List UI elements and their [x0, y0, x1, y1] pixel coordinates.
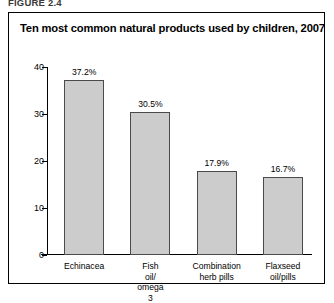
chart-title: Ten most common natural products used by…: [20, 22, 325, 34]
bar[interactable]: [197, 171, 237, 255]
bar-group[interactable]: 37.2%Echinacea: [64, 67, 104, 255]
x-axis-category-label: Fish oil/ omega 3: [137, 261, 163, 303]
y-axis-tick-label: 40: [34, 62, 44, 72]
bar-value-label: 16.7%: [271, 164, 295, 174]
bar-value-label: 37.2%: [72, 67, 96, 77]
bar[interactable]: [130, 112, 170, 255]
bar-value-label: 17.9%: [204, 158, 228, 168]
bar[interactable]: [64, 80, 104, 255]
bar-group[interactable]: 30.5%Fish oil/ omega 3: [130, 67, 170, 255]
plot-area: 010203040 37.2%Echinacea30.5%Fish oil/ o…: [47, 67, 312, 255]
y-axis-tick-label: 20: [34, 156, 44, 166]
y-axis-tick-label: 30: [34, 109, 44, 119]
bar[interactable]: [263, 177, 303, 255]
x-axis-category-label: Combination herb pills: [193, 261, 241, 282]
bars-layer: 37.2%Echinacea30.5%Fish oil/ omega 317.9…: [47, 67, 312, 255]
bar-group[interactable]: 17.9%Combination herb pills: [197, 67, 237, 255]
y-axis-tick-label: 0: [39, 250, 44, 260]
bar-value-label: 30.5%: [138, 99, 162, 109]
bar-group[interactable]: 16.7%Flaxseed oil/pills: [263, 67, 303, 255]
y-axis-tick-label: 10: [34, 203, 44, 213]
x-axis-category-label: Flaxseed oil/pills: [265, 261, 300, 282]
figure-caption: FIGURE 2.4: [8, 0, 62, 8]
x-axis-category-label: Echinacea: [64, 261, 104, 272]
figure-frame: Ten most common natural products used by…: [8, 12, 325, 284]
